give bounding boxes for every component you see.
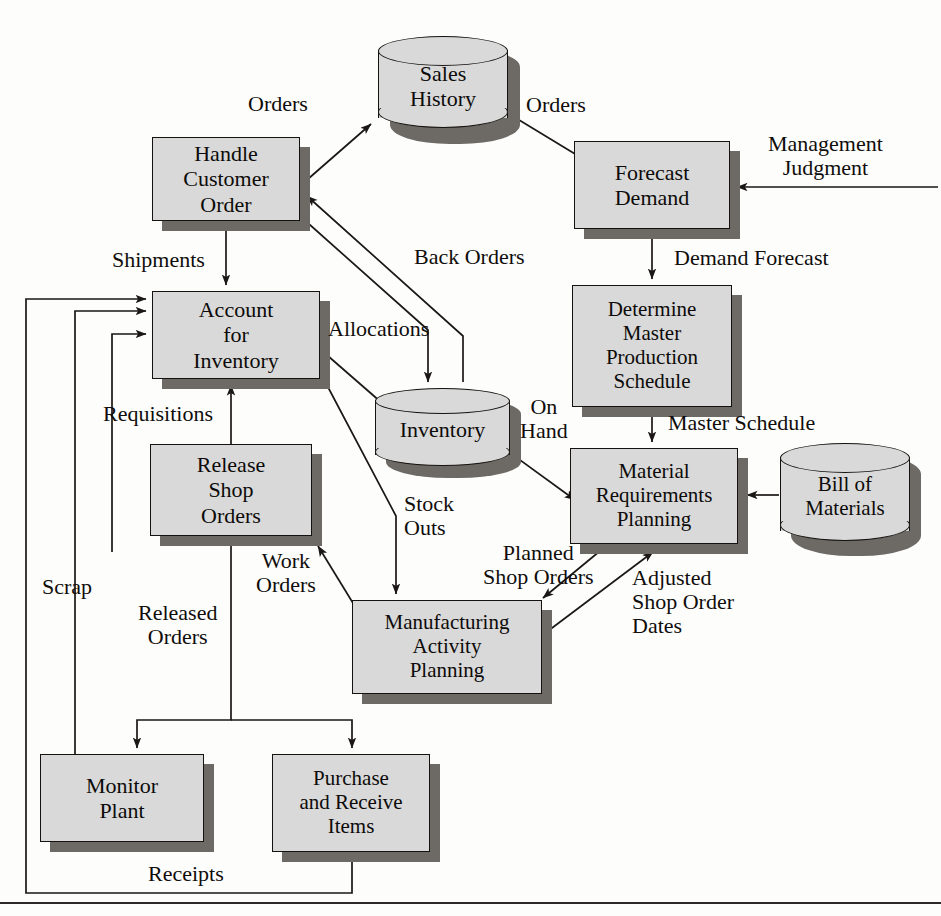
flow-label-shipments: Shipments [112, 248, 205, 272]
node-label: MonitorPlant [83, 773, 161, 823]
edge-back-orders [307, 196, 463, 382]
flow-label-orders-to-forecast: Orders [526, 93, 586, 117]
node-monitor-plant[interactable]: MonitorPlant [40, 754, 204, 842]
flow-label-back-orders: Back Orders [414, 245, 525, 269]
node-label: ManufacturingActivityPlanning [382, 611, 513, 683]
node-manufacturing-activity-planning[interactable]: ManufacturingActivityPlanning [352, 600, 542, 694]
node-handle-customer-order[interactable]: HandleCustomerOrder [152, 137, 300, 221]
edge-orders-to-sales-history [300, 124, 371, 186]
edge-work-orders [318, 546, 356, 608]
flow-label-orders-to-sales-history: Orders [248, 92, 308, 116]
datastore-sales-history[interactable]: SalesHistory [378, 36, 508, 132]
flow-label-scrap: Scrap [42, 575, 92, 599]
node-forecast-demand[interactable]: ForecastDemand [574, 141, 730, 229]
node-release-shop-orders[interactable]: ReleaseShopOrders [150, 444, 312, 536]
edge-requisitions-loop [112, 334, 146, 552]
node-label: Purchaseand ReceiveItems [296, 767, 405, 839]
flow-label-released-orders: ReleasedOrders [138, 601, 217, 649]
flow-label-management-judgment: ManagementJudgment [768, 132, 883, 180]
node-label: MaterialRequirementsPlanning [593, 460, 716, 532]
node-purchase-and-receive-items[interactable]: Purchaseand ReceiveItems [272, 754, 430, 852]
flow-label-planned-shop-orders: PlannedShop Orders [483, 541, 594, 589]
datastore-label: SalesHistory [378, 62, 508, 111]
node-label: ForecastDemand [612, 160, 693, 210]
datastore-label: Inventory [375, 418, 510, 443]
flow-label-on-hand: OnHand [520, 395, 568, 443]
flow-label-master-schedule: Master Schedule [668, 411, 815, 435]
edge-released-orders-purchase [231, 720, 352, 748]
flow-diagram-canvas: HandleCustomerOrder AccountforInventory … [0, 0, 941, 916]
flow-label-demand-forecast: Demand Forecast [674, 246, 829, 270]
datastore-label: Bill ofMaterials [780, 473, 910, 520]
node-account-for-inventory[interactable]: AccountforInventory [152, 291, 320, 379]
flow-label-allocations: Allocations [328, 317, 429, 341]
page-divider-rule [0, 902, 941, 904]
node-label: ReleaseShopOrders [194, 452, 268, 527]
node-label: AccountforInventory [190, 297, 282, 372]
node-determine-master-production-schedule[interactable]: DetermineMasterProductionSchedule [572, 285, 732, 407]
flow-label-work-orders: WorkOrders [256, 549, 316, 597]
edge-scrap [75, 311, 146, 800]
node-material-requirements-planning[interactable]: MaterialRequirementsPlanning [570, 448, 738, 544]
node-label: HandleCustomerOrder [180, 141, 272, 216]
datastore-bill-of-materials[interactable]: Bill ofMaterials [780, 443, 910, 545]
flow-label-stock-outs: StockOuts [404, 492, 454, 540]
cylinder-top-ellipse [780, 443, 910, 473]
flow-label-receipts: Receipts [148, 862, 224, 886]
node-label: DetermineMasterProductionSchedule [603, 298, 701, 394]
cylinder-top-ellipse [375, 388, 510, 414]
datastore-inventory[interactable]: Inventory [375, 388, 510, 468]
flow-label-requisitions: Requisitions [103, 402, 213, 426]
flow-label-adjusted-shop-order-dates: AdjustedShop OrderDates [632, 566, 734, 639]
